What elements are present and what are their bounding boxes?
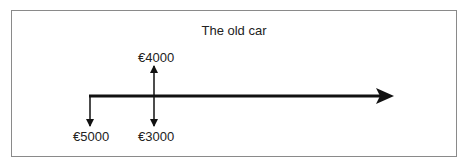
cash-flow-diagram <box>0 0 468 165</box>
outflow-label-5000: €5000 <box>73 130 109 144</box>
inflow-label-4000: €4000 <box>138 51 174 65</box>
outflow-label-3000: €3000 <box>138 130 174 144</box>
time-axis-arrow <box>89 88 394 104</box>
